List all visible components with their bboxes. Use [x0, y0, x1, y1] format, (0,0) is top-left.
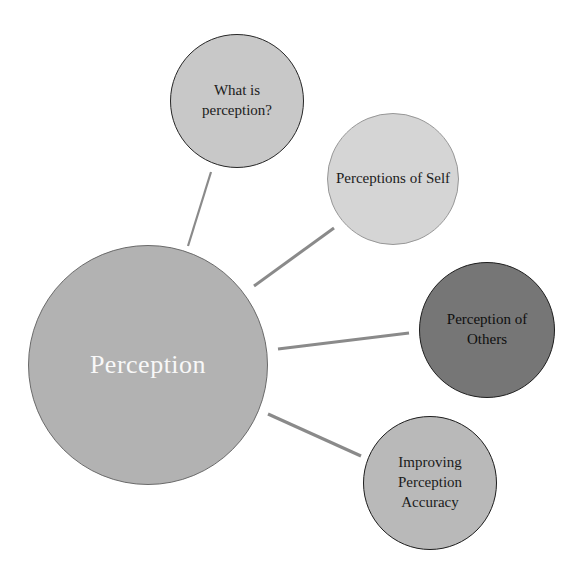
concept-map-canvas: Perception What is perception? Perceptio…: [0, 0, 578, 581]
node-label-perception: Perception: [84, 351, 212, 380]
node-what-is-perception: What is perception?: [170, 34, 304, 168]
node-perception-of-others: Perception of Others: [419, 262, 555, 398]
node-perceptions-of-self: Perceptions of Self: [327, 113, 459, 245]
connector-center-to-perception-of-others: [278, 333, 409, 349]
node-label-improving-perception-accuracy: Improving Perception Accuracy: [392, 453, 468, 512]
node-label-what-is-perception: What is perception?: [196, 81, 278, 121]
node-label-perception-of-others: Perception of Others: [441, 310, 533, 350]
connector-center-to-what-is-perception: [188, 172, 211, 246]
node-label-perceptions-of-self: Perceptions of Self: [330, 169, 456, 189]
connector-center-to-improving-perception-accuracy: [268, 414, 361, 456]
connector-center-to-perceptions-of-self: [254, 228, 334, 286]
node-perception-hub: Perception: [28, 245, 268, 485]
node-improving-perception-accuracy: Improving Perception Accuracy: [363, 416, 497, 550]
